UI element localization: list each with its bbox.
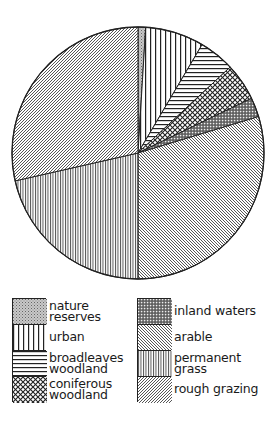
legend-label: nature reserves — [49, 300, 101, 323]
legend-item-urban: urban — [12, 324, 123, 350]
legend-swatch-horizontal-lines — [12, 350, 46, 376]
legend-label: inland waters — [174, 305, 256, 317]
legend-left-column: nature reservesurbanbroadleaves woodland… — [12, 298, 123, 402]
legend-label: urban — [49, 331, 85, 343]
legend-item-coniferous-woodland: coniferous woodland — [12, 376, 123, 402]
legend-label: coniferous woodland — [49, 378, 112, 401]
legend-label: rough grazing — [174, 383, 258, 395]
legend-swatch-diagonal-back — [137, 324, 171, 350]
legend-label: arable — [174, 331, 212, 343]
legend-label: broadleaves woodland — [49, 352, 123, 375]
legend-item-permanent-grass: permanent grass — [137, 350, 258, 376]
legend-swatch-dense-crosshatch — [137, 298, 171, 324]
legend-item-broadleaves-woodland: broadleaves woodland — [12, 350, 123, 376]
legend-swatch-fine-vertical — [137, 350, 171, 376]
legend-item-arable: arable — [137, 324, 258, 350]
pie-slices — [12, 27, 264, 279]
legend-swatch-dots-fine — [12, 298, 46, 324]
legend-swatch-diagonal-forward — [137, 376, 171, 402]
pie-chart — [0, 0, 280, 295]
legend-item-nature-reserves: nature reserves — [12, 298, 123, 324]
legend-label: permanent grass — [174, 352, 241, 375]
legend-right-column: inland watersarablepermanent grassrough … — [137, 298, 258, 402]
legend-swatch-vertical-lines — [12, 324, 46, 350]
legend-item-rough-grazing: rough grazing — [137, 376, 258, 402]
legend-swatch-crosshatch — [12, 376, 46, 402]
legend-item-inland-waters: inland waters — [137, 298, 258, 324]
